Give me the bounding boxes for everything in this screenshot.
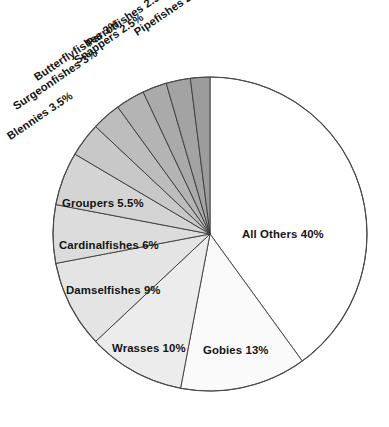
pie-chart-figure: All Others 40%Gobies 13%Wrasses 10%Damse… (0, 0, 389, 427)
pie-slice-label: All Others 40% (242, 228, 324, 240)
pie-slice-label: Damselfishes 9% (66, 284, 161, 296)
pie-slice-label: Gobies 13% (203, 344, 269, 356)
pie-slice-label: Groupers 5.5% (62, 197, 144, 209)
pie-slice-label: Wrasses 10% (112, 342, 186, 354)
pie-slice-label: Cardinalfishes 6% (59, 239, 159, 251)
